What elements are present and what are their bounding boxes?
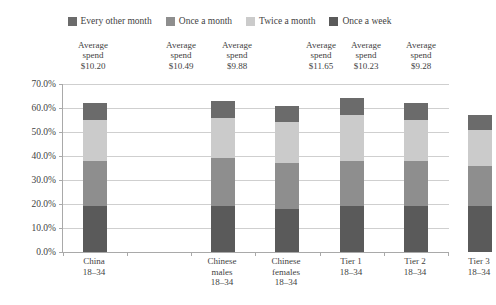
y-tickmark: [59, 180, 63, 181]
y-tickmark: [59, 204, 63, 205]
annotation-value: $9.88: [206, 61, 268, 71]
annotation-tier-3: Average spend $9.28: [390, 40, 452, 71]
segment-every-other-month: [404, 103, 428, 120]
annotation-value: $9.28: [390, 61, 452, 71]
segment-twice-a-month: [404, 161, 428, 207]
segment-every-other-month: [83, 103, 107, 120]
annotation-value: $10.49: [150, 61, 212, 71]
segment-every-other-month: [211, 101, 235, 118]
annotation-chinese-males: Average spend $10.49: [150, 40, 212, 71]
annotation-line2: spend: [335, 50, 397, 60]
x-label-line1: Tier 1: [320, 256, 382, 267]
x-label-line1: Chinese: [191, 256, 253, 267]
segment-once-a-week: [340, 206, 364, 252]
segment-once-a-month: [275, 122, 299, 163]
bar-group-tier-2: [385, 84, 447, 252]
legend-label: Once a month: [179, 16, 232, 26]
y-tickmark: [59, 108, 63, 109]
segment-once-a-month: [468, 130, 492, 166]
x-label-line2: 18–34: [63, 267, 125, 278]
y-tick-label: 10.0%: [10, 223, 56, 233]
annotation-tier-2: Average spend $10.23: [335, 40, 397, 71]
legend-label: Every other month: [81, 16, 152, 26]
x-category-chinese-females: Chinese females 18–34: [255, 256, 317, 288]
stacked-bar[interactable]: [275, 106, 299, 252]
annotation-value: $10.20: [62, 61, 124, 71]
segment-twice-a-month: [468, 166, 492, 207]
y-tick-label: 70.0%: [10, 79, 56, 89]
annotation-line1: Average: [150, 40, 212, 50]
stacked-bar[interactable]: [83, 103, 107, 252]
stacked-bar[interactable]: [340, 98, 364, 252]
x-label-line2: males: [191, 267, 253, 278]
legend-label: Twice a month: [259, 16, 315, 26]
segment-once-a-month: [340, 115, 364, 161]
x-label-line1: China: [63, 256, 125, 267]
stacked-bar[interactable]: [211, 101, 235, 252]
chart-legend: Every other month Once a month Twice a m…: [0, 16, 459, 26]
bar-group-china: [64, 84, 126, 252]
y-tickmark: [59, 84, 63, 85]
segment-every-other-month: [275, 106, 299, 123]
segment-every-other-month: [468, 115, 492, 129]
segment-twice-a-month: [340, 161, 364, 207]
annotation-line1: Average: [335, 40, 397, 50]
annotation-line1: Average: [290, 40, 352, 50]
x-category-tier-1: Tier 1 18–34: [320, 256, 382, 277]
legend-label: Once a week: [342, 16, 391, 26]
bar-group-tier-1: [321, 84, 383, 252]
x-category-chinese-males: Chinese males 18–34: [191, 256, 253, 288]
legend-item-every-other-month: Every other month: [68, 16, 152, 26]
segment-once-a-month: [83, 120, 107, 161]
annotation-line1: Average: [206, 40, 268, 50]
annotation-line2: spend: [290, 50, 352, 60]
legend-swatch-icon: [68, 17, 77, 26]
annotation-tier-1: Average spend $11.65: [290, 40, 352, 71]
bar-group-chinese-males: [192, 84, 254, 252]
legend-swatch-icon: [166, 17, 175, 26]
segment-once-a-week: [404, 206, 428, 252]
x-label-line3: 18–34: [191, 277, 253, 288]
annotation-line1: Average: [390, 40, 452, 50]
legend-item-twice-a-month: Twice a month: [246, 16, 315, 26]
annotation-china: Average spend $10.20: [62, 40, 124, 71]
y-tickmark: [59, 156, 63, 157]
segment-once-a-week: [468, 206, 492, 252]
y-tickmark: [59, 132, 63, 133]
segment-twice-a-month: [211, 158, 235, 206]
annotation-line1: Average: [62, 40, 124, 50]
segment-once-a-week: [275, 209, 299, 252]
segment-every-other-month: [340, 98, 364, 115]
plot-area: [62, 84, 449, 253]
x-label-line2: 18–34: [448, 267, 496, 278]
annotation-line2: spend: [206, 50, 268, 60]
annotation-line2: spend: [390, 50, 452, 60]
bar-group-chinese-females: [256, 84, 318, 252]
y-axis-labels: 70.0% 60.0% 50.0% 40.0% 30.0% 20.0% 10.0…: [8, 84, 56, 254]
x-label-line1: Tier 3: [448, 256, 496, 267]
legend-swatch-icon: [329, 17, 338, 26]
y-tick-label: 50.0%: [10, 127, 56, 137]
y-tick-label: 0.0%: [10, 247, 56, 257]
x-label-line1: Tier 2: [384, 256, 446, 267]
legend-swatch-icon: [246, 17, 255, 26]
annotation-chinese-females: Average spend $9.88: [206, 40, 268, 71]
x-label-line1: Chinese: [255, 256, 317, 267]
segment-twice-a-month: [275, 163, 299, 209]
x-label-line2: 18–34: [320, 267, 382, 278]
stacked-bar[interactable]: [468, 115, 492, 252]
x-axis-labels: China 18–34 Chinese males 18–34 Chinese …: [62, 256, 448, 302]
y-tick-label: 60.0%: [10, 103, 56, 113]
annotation-value: $10.23: [335, 61, 397, 71]
stacked-bar[interactable]: [404, 103, 428, 252]
y-tick-label: 20.0%: [10, 199, 56, 209]
segment-once-a-week: [211, 206, 235, 252]
bar-group-tier-3: [449, 84, 496, 252]
x-label-line3: 18–34: [255, 277, 317, 288]
y-tick-label: 30.0%: [10, 175, 56, 185]
annotation-line2: spend: [62, 50, 124, 60]
annotation-line2: spend: [150, 50, 212, 60]
x-category-china: China 18–34: [63, 256, 125, 277]
x-category-tier-2: Tier 2 18–34: [384, 256, 446, 277]
segment-once-a-week: [83, 206, 107, 252]
